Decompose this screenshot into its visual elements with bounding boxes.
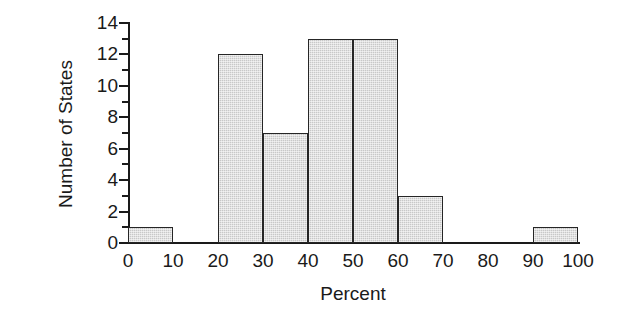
x-axis-tick-label: 0 (123, 250, 134, 272)
x-axis-tick-label: 20 (207, 250, 228, 272)
x-axis-tick-label: 10 (162, 250, 183, 272)
y-axis-tick-minor (122, 69, 128, 71)
y-axis-tick-label: 4 (84, 170, 118, 189)
y-axis-tick-label: 8 (84, 107, 118, 126)
histogram-bar (308, 39, 353, 243)
y-axis-tick-minor (122, 163, 128, 165)
x-axis-tick-label: 70 (432, 250, 453, 272)
plot-area (128, 23, 578, 243)
x-axis-tick-label: 100 (562, 250, 594, 272)
y-axis-tick-minor (122, 38, 128, 40)
y-axis-tick-major (119, 179, 128, 181)
y-axis-tick-label: 0 (84, 233, 118, 252)
x-axis-tick-label: 90 (522, 250, 543, 272)
y-axis-tick-major (119, 148, 128, 150)
y-axis-tick-label: 12 (84, 44, 118, 63)
y-axis-tick-major (119, 22, 128, 24)
y-axis-tick-minor (122, 101, 128, 103)
x-axis-tick-label: 50 (342, 250, 363, 272)
y-axis-tick-minor (122, 132, 128, 134)
histogram-bar (263, 133, 308, 243)
y-axis-tick-label: 10 (84, 76, 118, 95)
histogram-bar (353, 39, 398, 243)
x-axis-tick-label: 60 (387, 250, 408, 272)
x-axis-tick-label: 40 (297, 250, 318, 272)
x-axis-tick-label: 80 (477, 250, 498, 272)
y-axis-tick-major (119, 211, 128, 213)
y-axis-tick-major (119, 116, 128, 118)
histogram-chart: Number of States 02468101214 01020304050… (0, 0, 628, 321)
y-axis-tick-minor (122, 226, 128, 228)
y-axis-tick-minor (122, 195, 128, 197)
y-axis-tick-major (119, 242, 128, 244)
y-axis-tick-major (119, 53, 128, 55)
y-axis-tick-labels: 02468101214 (80, 23, 118, 243)
histogram-bar (218, 54, 263, 243)
histogram-bar (128, 227, 173, 243)
y-axis-tick-label: 14 (84, 13, 118, 32)
x-axis-title: Percent (128, 283, 578, 305)
x-axis-tick-label: 30 (252, 250, 273, 272)
y-axis-tick-major (119, 85, 128, 87)
x-axis-tick-labels: 0102030405060708090100 (128, 250, 578, 276)
y-axis-tick-label: 2 (84, 202, 118, 221)
histogram-bar (533, 227, 578, 243)
histogram-bar (398, 196, 443, 243)
y-axis-tick-label: 6 (84, 139, 118, 158)
